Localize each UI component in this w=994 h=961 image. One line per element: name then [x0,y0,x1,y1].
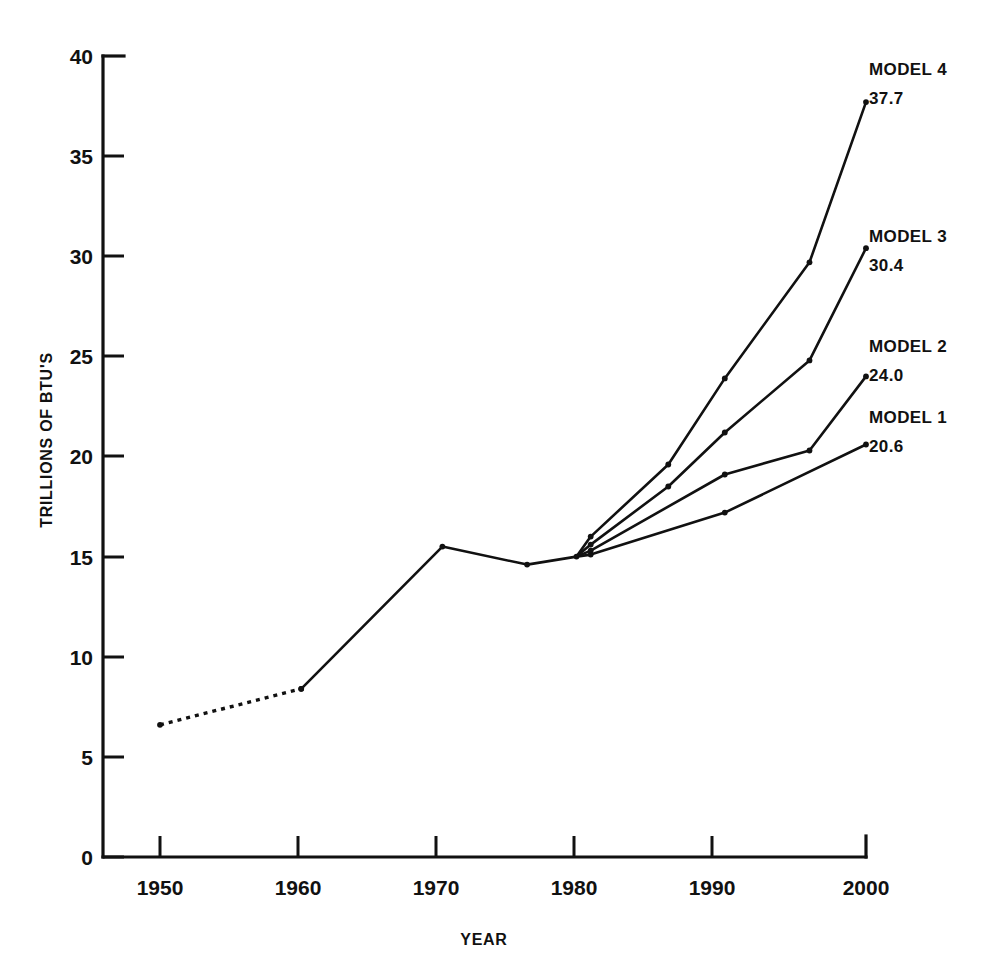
data-point-marker [722,430,728,436]
data-point-marker [722,510,728,516]
data-point-marker [588,542,594,548]
series-path-historical [301,547,576,689]
y-axis-ticks [103,156,124,857]
y-axis-title: TRILLIONS OF BTU'S [38,352,55,528]
data-point-marker [440,544,446,550]
x-axis-title: YEAR [460,931,507,948]
x-axis-tick-labels: 1950 1960 1970 1980 1990 2000 [137,876,890,899]
data-point-marker [588,548,594,554]
y-tick-label-20: 20 [70,445,93,468]
y-tick-label-30: 30 [70,245,93,268]
series-path-historical-estimated [160,689,301,725]
data-point-marker [807,259,813,265]
series-value-model-4: 37.7 [869,89,904,108]
data-point-marker [722,376,728,382]
x-tick-label-1970: 1970 [413,876,460,899]
series-label-model-3: MODEL 3 [869,227,947,246]
series-end-labels: MODEL 4 37.7 MODEL 3 30.4 MODEL 2 24.0 M… [869,60,947,456]
line-chart-canvas: TRILLIONS OF BTU'S 0 5 10 15 20 [0,0,994,961]
data-point-marker [807,358,813,364]
series-path-model-1 [577,445,867,557]
series-label-model-2: MODEL 2 [869,337,947,356]
data-point-marker [588,534,594,540]
data-point-marker [157,722,163,728]
series-path-model-4 [577,102,867,556]
x-tick-label-2000: 2000 [843,876,890,899]
y-tick-label-25: 25 [70,345,94,368]
series-value-model-2: 24.0 [869,366,904,385]
axes-group [103,56,866,857]
chart-figure: TRILLIONS OF BTU'S 0 5 10 15 20 [0,0,994,961]
x-tick-label-1960: 1960 [275,876,322,899]
data-point-marker [665,462,671,468]
data-point-marker [863,245,869,251]
data-point-marker [665,484,671,490]
x-tick-label-1980: 1980 [551,876,598,899]
data-point-marker [524,562,530,568]
y-tick-label-10: 10 [70,646,93,669]
x-tick-label-1950: 1950 [137,876,184,899]
y-tick-label-40: 40 [70,45,93,68]
series-value-model-3: 30.4 [869,256,904,275]
series-value-model-1: 20.6 [869,437,904,456]
x-axis-ticks [160,836,712,857]
y-axis-tick-labels: 0 5 10 15 20 25 30 35 40 [70,45,94,869]
series-label-model-1: MODEL 1 [869,408,947,427]
data-point-marker [722,472,728,478]
y-tick-label-5: 5 [81,746,93,769]
series-label-model-4: MODEL 4 [869,60,947,79]
y-tick-label-0: 0 [81,846,93,869]
data-point-marker [298,686,304,692]
data-point-marker [807,448,813,454]
x-tick-label-1990: 1990 [689,876,736,899]
y-tick-label-15: 15 [70,546,94,569]
y-tick-label-35: 35 [70,145,94,168]
series-layer [157,99,869,727]
